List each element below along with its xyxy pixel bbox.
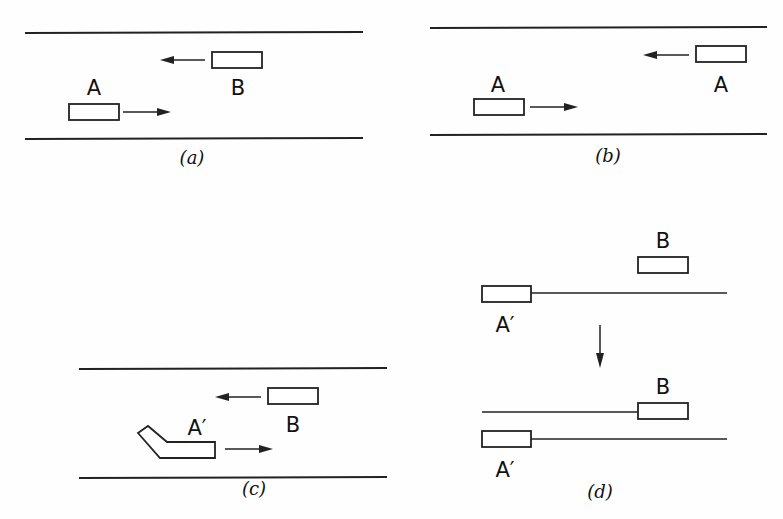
top-a-prime-block xyxy=(482,286,531,302)
top-label-a-prime: A′ xyxy=(495,313,514,337)
road-top-line xyxy=(25,32,363,33)
bottom-label-b: B xyxy=(656,375,670,399)
bottom-b-block xyxy=(638,403,688,419)
bottom-label-a-prime: A′ xyxy=(495,458,514,482)
panel-a: A B (a) xyxy=(25,32,363,168)
road-top-line xyxy=(79,368,387,369)
panel-c: A′ B (c) xyxy=(79,368,387,499)
car-b xyxy=(268,388,318,404)
arrow-down-icon xyxy=(596,325,604,368)
caption-d: (d) xyxy=(587,481,613,502)
car-left xyxy=(474,99,524,115)
label-b: B xyxy=(286,413,300,437)
label-a: A xyxy=(87,76,102,100)
road-top-line xyxy=(430,27,767,28)
label-right: A xyxy=(714,73,729,97)
label-left: A xyxy=(491,73,506,97)
caption-c: (c) xyxy=(242,478,266,499)
top-label-b: B xyxy=(656,229,670,253)
caption-a: (a) xyxy=(180,147,205,168)
arrow-left-icon xyxy=(643,51,689,59)
road-bottom-line xyxy=(430,134,767,135)
diagram-svg: A B (a) A A (b) A′ xyxy=(0,0,783,519)
top-b-block xyxy=(638,257,688,273)
label-a-prime: A′ xyxy=(187,416,206,440)
road-bottom-line xyxy=(25,138,363,139)
road-bottom-line xyxy=(79,477,387,478)
label-b: B xyxy=(231,76,245,100)
car-a xyxy=(69,104,119,120)
car-b xyxy=(212,52,262,68)
bottom-a-prime-block xyxy=(482,431,531,447)
arrow-right-icon xyxy=(530,103,578,111)
arrow-left-icon xyxy=(160,56,205,64)
arrow-left-icon xyxy=(215,393,261,401)
caption-b: (b) xyxy=(595,145,621,166)
car-right xyxy=(696,46,746,62)
diagram-canvas: A B (a) A A (b) A′ xyxy=(0,0,783,519)
panel-b: A A (b) xyxy=(430,27,767,166)
panel-d: B A′ B A′ (d) xyxy=(482,229,727,502)
arrow-right-icon xyxy=(123,108,171,116)
arrow-right-icon xyxy=(225,445,273,453)
